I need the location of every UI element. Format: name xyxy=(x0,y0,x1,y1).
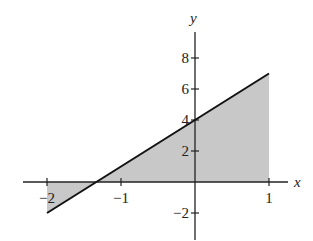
y-tick-label: 6 xyxy=(182,81,190,97)
x-tick-label: −1 xyxy=(113,190,129,206)
x-tick-label: −2 xyxy=(39,190,55,206)
x-tick-label: 1 xyxy=(265,190,273,206)
y-tick-label: 2 xyxy=(182,143,190,159)
y-axis-label: y xyxy=(188,10,197,26)
x-axis-label: x xyxy=(293,174,301,190)
y-tick-label: 8 xyxy=(182,50,190,66)
chart: −2−11 −22468 x y xyxy=(0,0,313,241)
y-tick-label: −2 xyxy=(173,205,189,221)
